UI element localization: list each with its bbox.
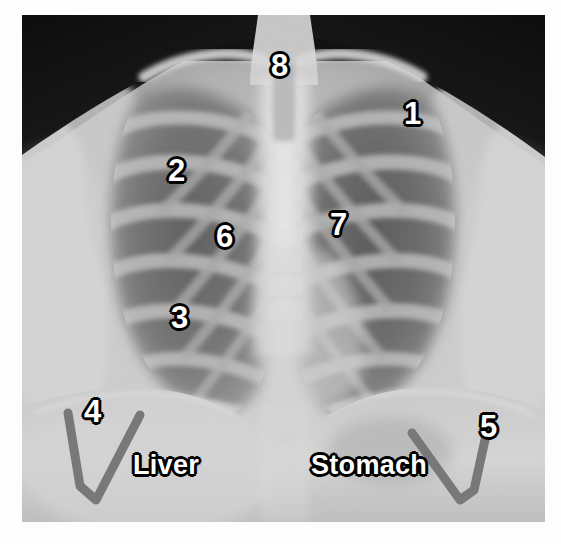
label-liver: Liver — [133, 452, 199, 479]
marker-7: 7 — [330, 209, 347, 240]
radiograph-image — [22, 15, 545, 522]
marker-5: 5 — [480, 411, 497, 442]
marker-8: 8 — [271, 50, 288, 81]
marker-6: 6 — [216, 221, 233, 252]
marker-2: 2 — [168, 155, 185, 186]
marker-3: 3 — [171, 302, 188, 333]
marker-1: 1 — [404, 98, 421, 129]
radiograph-plate — [22, 15, 545, 522]
label-stomach: Stomach — [311, 452, 427, 479]
marker-4: 4 — [84, 396, 101, 427]
chest-xray-figure: 1 2 3 4 5 6 7 8 Liver Stomach — [0, 0, 561, 544]
